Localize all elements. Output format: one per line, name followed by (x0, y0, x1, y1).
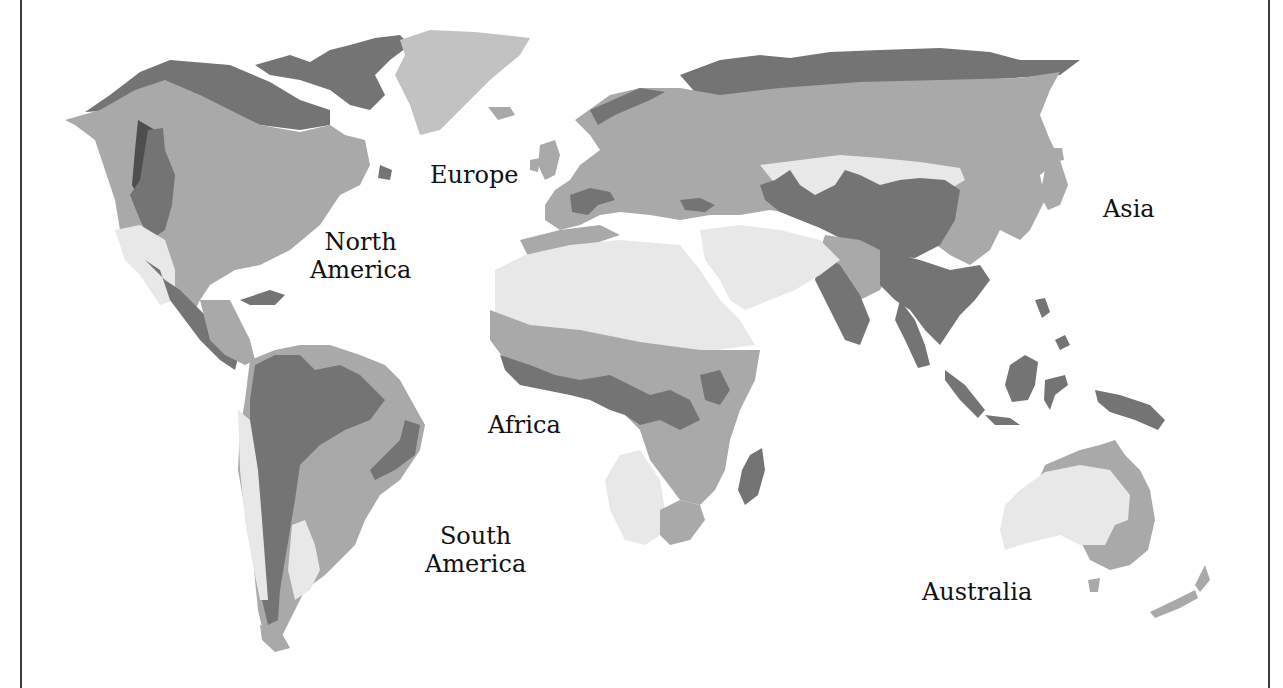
label-south-america: South America (425, 522, 526, 578)
label-south-america-line1: South (425, 522, 526, 550)
label-north-america: North America (310, 228, 411, 284)
label-asia: Asia (1103, 195, 1155, 223)
label-south-america-line2: America (425, 550, 526, 578)
greenland-shape (395, 30, 530, 135)
label-north-america-line2: America (310, 256, 411, 284)
label-europe: Europe (430, 161, 518, 189)
south-america-shape (238, 345, 425, 652)
world-map (0, 0, 1283, 688)
label-africa: Africa (488, 411, 561, 439)
label-north-america-line1: North (310, 228, 411, 256)
north-america-shape (65, 35, 410, 370)
label-australia: Australia (922, 578, 1032, 606)
